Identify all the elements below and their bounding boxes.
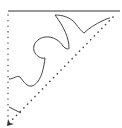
- cut-curve: [9, 15, 110, 86]
- fold-cut-diagram: [0, 0, 122, 128]
- small-cut-line: [9, 107, 21, 113]
- arrow-down-left-icon: [7, 119, 14, 126]
- diagonal-edge-dotted-line: [12, 17, 113, 120]
